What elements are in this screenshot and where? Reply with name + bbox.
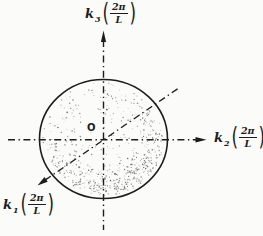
k2-fraction-denominator: L [244, 138, 251, 149]
axis-label-k3: k3 ( 2π L ) [85, 2, 137, 25]
k3-symbol-letter: k [85, 6, 94, 21]
k2-subscript: 2 [224, 139, 230, 147]
k1-symbol-letter: k [3, 197, 12, 212]
axis-label-k1: k1 ( 2π L ) [3, 193, 55, 216]
k1-axis-arrowhead [38, 177, 48, 185]
k3-axis-arrowhead [101, 31, 106, 43]
k1-fraction: 2π L [28, 193, 46, 216]
k3-fraction-denominator: L [115, 14, 122, 25]
k2-symbol-letter: k [214, 130, 223, 145]
k2-symbol: k2 [214, 129, 230, 145]
k1-subscript: 1 [13, 206, 19, 214]
k2-paren-close-glyph: ) [258, 126, 263, 149]
k2-axis-arrowhead [196, 137, 207, 142]
k2-paren-open-glyph: ( [231, 126, 238, 149]
k3-subscript: 3 [95, 15, 101, 23]
k1-symbol: k1 [3, 196, 19, 212]
k3-paren-open-glyph: ( [102, 2, 109, 25]
k3-fraction-numerator: 2π [110, 2, 128, 14]
k1-fraction-numerator: 2π [28, 193, 46, 205]
k3-paren-close-glyph: ) [129, 2, 136, 25]
k3-fraction: 2π L [110, 2, 128, 25]
axis-label-k2: k2 ( 2π L ) [214, 126, 263, 149]
k3-symbol: k3 [85, 5, 101, 21]
k1-paren-open-glyph: ( [20, 193, 27, 216]
k2-fraction: 2π L [239, 126, 257, 149]
k2-fraction-numerator: 2π [239, 126, 257, 138]
k-space-sphere-figure: k3 ( 2π L ) k2 ( 2π L ) k1 ( 2π L ) O [0, 0, 263, 236]
k1-paren-close-glyph: ) [47, 193, 54, 216]
origin-label: O [87, 123, 96, 133]
k1-fraction-denominator: L [33, 205, 40, 216]
